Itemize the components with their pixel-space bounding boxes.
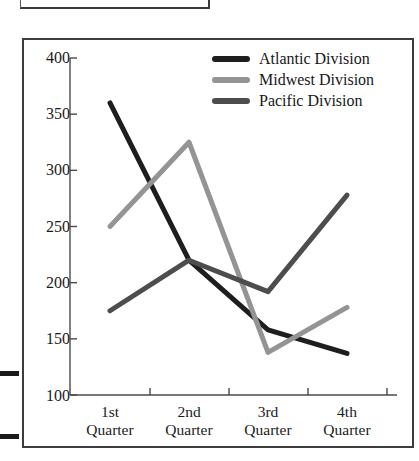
- y-tick-label-250: 250: [26, 219, 70, 235]
- x-tick-label-q3-line2: Quarter: [229, 421, 307, 439]
- legend-label-midwest: Midwest Division: [259, 71, 374, 89]
- x-tick-label-q2-line2: Quarter: [150, 421, 228, 439]
- x-tick-label-q4-line2: Quarter: [308, 421, 386, 439]
- y-tick-label-300: 300: [26, 162, 70, 178]
- x-tick-label-q2-line1: 2nd: [150, 403, 228, 421]
- x-tick-label-q1-line2: Quarter: [71, 421, 149, 439]
- chart-legend: Atlantic Division Midwest Division Pacif…: [212, 48, 402, 111]
- legend-swatch-pacific: [212, 98, 250, 104]
- y-tick-label-400: 400: [26, 50, 70, 66]
- y-tick-label-350: 350: [26, 106, 70, 122]
- x-tick-label-q4-line1: 4th: [308, 403, 386, 421]
- x-tick-label-q3-line1: 3rd: [229, 403, 307, 421]
- legend-label-atlantic: Atlantic Division: [259, 50, 370, 68]
- y-tick-label-100: 100: [26, 388, 70, 404]
- legend-label-pacific: Pacific Division: [259, 92, 363, 110]
- legend-item-midwest: Midwest Division: [212, 69, 402, 90]
- y-tick-label-200: 200: [26, 275, 70, 291]
- legend-swatch-atlantic: [212, 56, 250, 62]
- legend-item-atlantic: Atlantic Division: [212, 48, 402, 69]
- x-tick-label-q1-line1: 1st: [71, 403, 149, 421]
- left-edge-mark-lower: [0, 434, 19, 439]
- top-cropped-frame-fragment: [20, 0, 210, 9]
- left-edge-mark-upper: [0, 371, 19, 376]
- y-tick-label-150: 150: [26, 331, 70, 347]
- legend-item-pacific: Pacific Division: [212, 90, 402, 111]
- legend-swatch-midwest: [212, 77, 250, 83]
